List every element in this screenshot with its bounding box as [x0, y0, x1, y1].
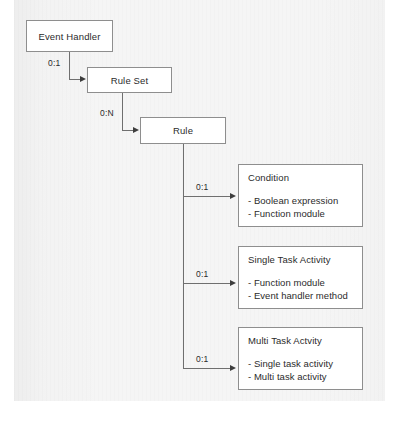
- edge-rule-to-multi-task-activity-horizontal: [183, 368, 232, 369]
- edge-event-handler-to-rule-set-cardinality: 0:1: [48, 58, 60, 68]
- node-rule-label: Rule: [173, 125, 193, 136]
- node-multi-task-activity-label: Multi Task Actvity: [248, 335, 362, 346]
- node-multi-task-activity-item: - Single task activity: [248, 357, 362, 370]
- node-multi-task-activity[interactable]: Multi Task Actvity - Single task activit…: [238, 327, 363, 390]
- node-rule-set-label: Rule Set: [111, 75, 149, 86]
- node-event-handler-label: Event Handler: [38, 31, 100, 42]
- edge-event-handler-to-rule-set-arrowhead: [80, 76, 86, 82]
- edge-rule-set-to-rule-vertical: [122, 93, 123, 131]
- node-single-task-activity[interactable]: Single Task Activity - Function module -…: [238, 246, 363, 309]
- edge-rule-set-to-rule-cardinality: 0:N: [100, 108, 114, 118]
- node-multi-task-activity-items: - Single task activity - Multi task acti…: [248, 357, 362, 383]
- diagram-page: Event Handler Rule Set Rule Condition - …: [0, 0, 393, 427]
- node-condition-item: - Boolean expression: [248, 194, 362, 207]
- edge-rule-to-multi-task-activity-arrowhead: [230, 365, 236, 371]
- edge-rule-to-condition-arrowhead: [230, 193, 236, 199]
- edge-rule-to-multi-task-activity-cardinality: 0:1: [196, 354, 208, 364]
- node-condition-items: - Boolean expression - Function module: [248, 194, 362, 220]
- edge-rule-to-single-task-activity-horizontal: [183, 283, 232, 284]
- node-single-task-activity-item: - Event handler method: [248, 289, 362, 302]
- node-condition-label: Condition: [248, 172, 362, 183]
- node-condition-item: - Function module: [248, 207, 362, 220]
- edge-rule-to-single-task-activity-cardinality: 0:1: [196, 269, 208, 279]
- figure-caption: [22, 419, 322, 427]
- edge-rule-set-to-rule-arrowhead: [133, 127, 139, 133]
- edge-rule-to-condition-cardinality: 0:1: [196, 182, 208, 192]
- edge-rule-to-condition-horizontal: [183, 196, 232, 197]
- node-event-handler[interactable]: Event Handler: [26, 20, 113, 52]
- node-rule-set[interactable]: Rule Set: [87, 67, 172, 93]
- edge-rule-to-single-task-activity-arrowhead: [230, 280, 236, 286]
- node-single-task-activity-label: Single Task Activity: [248, 254, 362, 265]
- node-rule[interactable]: Rule: [140, 117, 226, 144]
- node-single-task-activity-item: - Function module: [248, 276, 362, 289]
- node-single-task-activity-items: - Function module - Event handler method: [248, 276, 362, 302]
- edge-event-handler-to-rule-set-vertical: [69, 52, 70, 80]
- edge-rule-trunk-vertical: [183, 144, 184, 369]
- scanned-diagram-panel: Event Handler Rule Set Rule Condition - …: [14, 0, 385, 401]
- node-condition[interactable]: Condition - Boolean expression - Functio…: [238, 164, 363, 227]
- node-multi-task-activity-item: - Multi task activity: [248, 370, 362, 383]
